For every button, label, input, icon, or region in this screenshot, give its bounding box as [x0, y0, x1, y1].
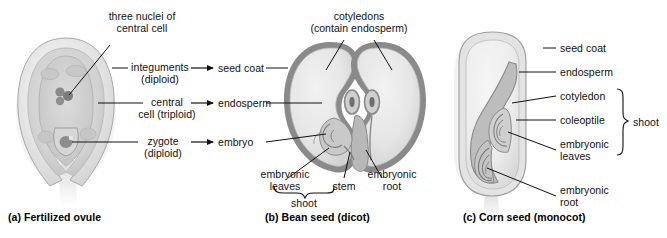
corn-seed-illustration: [454, 32, 526, 218]
label-three-nuclei-of-central-cell: three nuclei of central cell: [109, 10, 176, 34]
bean-seed-illustration: [284, 42, 426, 173]
label-embryonic-root-bean: embryonic root: [368, 168, 417, 192]
label-coleoptile-corn: coleoptile: [560, 114, 605, 126]
label-endosperm-transition: endosperm: [218, 97, 271, 109]
shoot-brace-corn: [617, 89, 628, 155]
label-seed-coat-transition: seed coat: [218, 62, 264, 74]
label-central-cell-triploid: central cell (triploid): [138, 96, 195, 120]
label-embryo-transition: embryo: [218, 136, 253, 148]
label-embryonic-leaves-bean: embryonic leaves: [261, 168, 310, 192]
caption-panel-b: (b) Bean seed (dicot): [265, 211, 370, 223]
label-embryonic-leaves-corn: embryonic leaves: [560, 138, 609, 162]
label-cotyledon-corn: cotyledon: [560, 90, 605, 102]
ovule-illustration: [16, 38, 116, 206]
label-shoot-corn: shoot: [633, 116, 659, 128]
label-shoot-bean: shoot: [291, 197, 317, 209]
label-stem-bean: stem: [333, 180, 356, 192]
label-cotyledons-contain-endosperm: cotyledons (contain endosperm): [310, 10, 407, 34]
caption-panel-a: (a) Fertilized ovule: [8, 211, 101, 223]
seed-development-figure: three nuclei of central cell integuments…: [0, 0, 667, 238]
label-seed-coat-corn: seed coat: [560, 42, 606, 54]
nucleus-3: [56, 97, 64, 105]
label-integuments-diploid: integuments (diploid): [131, 61, 189, 85]
caption-panel-c: (c) Corn seed (monocot): [463, 211, 585, 223]
label-endosperm-corn: endosperm: [560, 66, 613, 78]
label-embryonic-root-corn: embryonic root: [560, 184, 609, 208]
label-zygote-diploid: zygote (diploid): [144, 135, 182, 159]
